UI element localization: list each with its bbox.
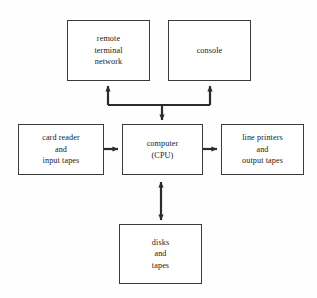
node-card-reader-and-input-tapes[interactable]: card reader and input tapes: [18, 124, 104, 175]
node-label-line: computer: [147, 138, 179, 150]
node-computer-cpu[interactable]: computer (CPU): [122, 124, 203, 175]
node-label-line: console: [197, 45, 223, 57]
node-label-line: remote: [97, 33, 120, 45]
node-label-line: (CPU): [152, 150, 174, 162]
node-console[interactable]: console: [168, 20, 251, 81]
node-label-line: terminal: [94, 45, 122, 57]
node-label-line: line printers: [242, 132, 283, 144]
node-label-line: input tapes: [43, 155, 80, 167]
node-label-line: network: [95, 56, 123, 68]
node-label-line: and: [55, 144, 67, 156]
block-diagram-canvas: remote terminal network console card rea…: [0, 0, 317, 298]
node-label-line: tapes: [152, 260, 169, 272]
top-bus-connector: [108, 86, 210, 120]
node-label-line: and: [154, 248, 166, 260]
node-label-line: card reader: [42, 132, 80, 144]
node-remote-terminal-network[interactable]: remote terminal network: [67, 20, 150, 81]
node-label-line: and: [256, 144, 268, 156]
node-disks-and-tapes[interactable]: disks and tapes: [119, 224, 202, 284]
node-label-line: output tapes: [242, 155, 283, 167]
node-label-line: disks: [152, 237, 169, 249]
node-line-printers-and-output-tapes[interactable]: line printers and output tapes: [221, 124, 304, 175]
